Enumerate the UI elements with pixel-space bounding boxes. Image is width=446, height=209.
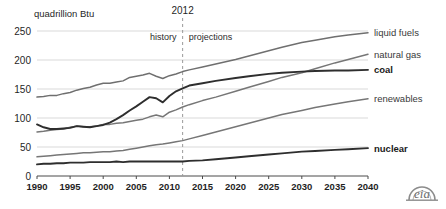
series-line-natural-gas xyxy=(37,54,368,132)
history-label: history xyxy=(150,32,177,42)
energy-projection-chart: 050100150200250 199019952000200520102015… xyxy=(0,0,446,209)
series-line-nuclear xyxy=(37,148,368,164)
series-label-renewables: renewables xyxy=(374,93,423,104)
series-label-liquid-fuels: liquid fuels xyxy=(374,27,419,38)
x-tick-label: 2020 xyxy=(225,181,246,192)
x-axis-tick-labels: 1990199520002005201020152020202520302035… xyxy=(26,181,378,192)
divider-year-label: 2012 xyxy=(172,5,195,16)
y-tick-label: 200 xyxy=(14,55,31,66)
eia-logo-text: eia xyxy=(414,186,430,201)
x-tick-label: 1995 xyxy=(60,181,82,192)
x-tick-label: 2000 xyxy=(93,181,114,192)
gridlines xyxy=(37,31,368,147)
eia-logo: eia xyxy=(404,181,440,205)
x-tick-label: 2015 xyxy=(192,181,214,192)
x-tick-label: 2040 xyxy=(357,181,378,192)
series-label-natural-gas: natural gas xyxy=(374,49,421,60)
x-tick-label: 2035 xyxy=(324,181,346,192)
series-labels: liquid fuelsnatural gascoalrenewablesnuc… xyxy=(374,27,423,153)
projections-label: projections xyxy=(189,32,233,42)
y-tick-label: 150 xyxy=(14,84,31,95)
x-tick-label: 1990 xyxy=(26,181,47,192)
series-line-coal xyxy=(37,70,368,129)
y-axis-tick-labels: 050100150200250 xyxy=(14,26,31,182)
x-tick-label: 2030 xyxy=(291,181,312,192)
series-line-liquid-fuels xyxy=(37,33,368,97)
chart-svg: 050100150200250 199019952000200520102015… xyxy=(0,0,446,209)
y-tick-label: 0 xyxy=(25,171,31,182)
x-tick-label: 2005 xyxy=(126,181,148,192)
y-tick-label: 250 xyxy=(14,26,31,37)
series-lines xyxy=(37,33,368,165)
y-axis-unit-label: quadrillion Btu xyxy=(34,8,94,19)
series-label-coal: coal xyxy=(374,64,393,75)
x-tick-label: 2010 xyxy=(159,181,180,192)
x-tick-label: 2025 xyxy=(258,181,280,192)
y-tick-label: 50 xyxy=(20,142,32,153)
y-tick-label: 100 xyxy=(14,113,31,124)
series-label-nuclear: nuclear xyxy=(374,143,408,154)
